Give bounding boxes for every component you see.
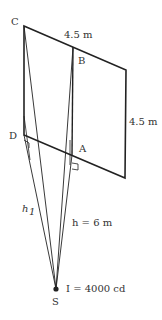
label-top-width: 4.5 m — [64, 29, 93, 40]
label-intensity: I = 4000 cd — [66, 283, 126, 294]
label-s: S — [52, 296, 59, 307]
label-a: A — [78, 143, 87, 154]
label-c: C — [11, 16, 19, 27]
label-h1-sub: 1 — [29, 206, 35, 217]
label-b: B — [78, 55, 85, 66]
right-angle-mark-a — [72, 163, 78, 170]
label-h: h = 6 m — [72, 217, 113, 228]
label-d: D — [9, 130, 17, 141]
light-source-point — [53, 286, 58, 291]
illumination-diagram: C B D A S 4.5 m 4.5 m h 1 h = 6 m I = 40… — [0, 0, 162, 320]
label-h1: h — [22, 203, 28, 214]
label-side-height: 4.5 m — [129, 116, 158, 127]
